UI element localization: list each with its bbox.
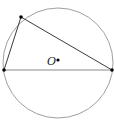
vertex-right [110, 68, 114, 72]
vertex-top-left [19, 15, 23, 19]
circumcircle [3, 8, 113, 118]
geometry-diagram: O [0, 0, 114, 123]
center-point [56, 58, 59, 61]
vertex-left [2, 68, 6, 72]
center-label: O [47, 55, 56, 68]
